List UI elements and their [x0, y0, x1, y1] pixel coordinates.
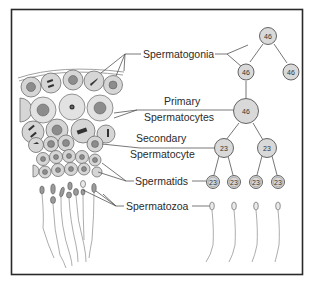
label-primary-line1: Primary	[164, 95, 201, 107]
svg-text:23: 23	[274, 179, 282, 186]
spermatogenesis-diagram: Spermatogonia Primary Spermatocytes Seco…	[0, 0, 313, 282]
node-spermatid-2: 23	[228, 176, 241, 189]
node-spermatogonia-top: 46	[260, 28, 277, 45]
tree-spermatozoa	[206, 202, 280, 262]
node-spermatogonia-left: 46	[238, 64, 254, 80]
label-spermatids: Spermatids	[135, 175, 188, 187]
label-secondary-line1: Secondary	[136, 132, 187, 144]
spermatozoa-cells	[40, 181, 96, 269]
node-spermatid-1: 23	[207, 176, 220, 189]
svg-text:46: 46	[264, 33, 272, 40]
node-spermatid-4: 23	[272, 176, 285, 189]
svg-text:46: 46	[242, 108, 250, 115]
svg-text:46: 46	[242, 69, 250, 76]
node-secondary-spermatocyte-left: 23	[215, 139, 234, 158]
node-spermatid-3: 23	[250, 176, 263, 189]
primary-spermatocyte-cells	[20, 94, 113, 123]
spermatogonia-cells	[21, 70, 123, 97]
node-primary-spermatocyte: 46	[234, 99, 259, 124]
label-spermatozoa: Spermatozoa	[126, 200, 189, 212]
node-secondary-spermatocyte-right: 23	[258, 139, 277, 158]
svg-text:23: 23	[230, 179, 238, 186]
svg-text:23: 23	[220, 145, 228, 152]
node-spermatogonia-right: 46	[283, 64, 299, 80]
svg-text:46: 46	[287, 69, 295, 76]
label-primary-line2: Spermatocytes	[144, 111, 214, 123]
seminiferous-tubule-section	[18, 54, 140, 268]
svg-text:23: 23	[252, 179, 260, 186]
label-spermatogonia: Spermatogonia	[143, 48, 214, 60]
lineage-tree: 46 46 46 46 23 23 23 23	[206, 28, 299, 263]
stage-labels: Spermatogonia Primary Spermatocytes Seco…	[116, 48, 237, 212]
svg-text:23: 23	[209, 179, 217, 186]
label-secondary-line2: Spermatocyte	[130, 148, 195, 160]
svg-text:23: 23	[263, 145, 271, 152]
